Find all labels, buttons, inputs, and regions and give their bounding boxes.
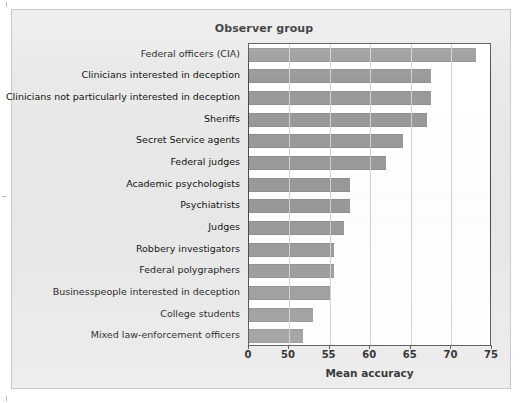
figure-container: Observer group Federal officers (CIA)Cli… <box>0 0 525 403</box>
x-tick-label-75: 75 <box>484 349 498 360</box>
category-axis-labels: Federal officers (CIA)Clinicians interes… <box>12 43 244 346</box>
category-label: Academic psychologists <box>126 178 240 189</box>
gridline-50 <box>289 44 290 345</box>
gridline-55 <box>330 44 331 345</box>
bar <box>249 308 313 322</box>
bar <box>249 264 334 278</box>
bar <box>249 113 427 127</box>
bar <box>249 199 350 213</box>
category-label: Psychiatrists <box>180 199 240 210</box>
category-label: Judges <box>208 221 240 232</box>
bar <box>249 69 431 83</box>
category-label: Mixed law-enforcement officers <box>91 329 240 340</box>
bar <box>249 48 476 62</box>
x-tick-label-60: 60 <box>362 349 376 360</box>
x-axis-ticks: 0505560657075 <box>248 349 491 365</box>
category-label: College students <box>160 308 240 319</box>
category-label: Clinicians not particularly interested i… <box>6 91 240 102</box>
category-label: Clinicians interested in deception <box>82 69 240 80</box>
category-label: Robbery investigators <box>136 243 240 254</box>
bar <box>249 134 403 148</box>
bar <box>249 286 331 300</box>
category-label: Businesspeople interested in deception <box>53 286 240 297</box>
category-label: Federal officers (CIA) <box>141 48 240 59</box>
x-tick-label-65: 65 <box>403 349 417 360</box>
x-axis-label: Mean accuracy <box>248 367 491 379</box>
scan-edge-mark-left <box>2 196 7 197</box>
category-label: Federal polygraphers <box>139 264 240 275</box>
gridline-60 <box>370 44 371 345</box>
x-tick-label-55: 55 <box>322 349 336 360</box>
gridline-70 <box>451 44 452 345</box>
bar <box>249 243 334 257</box>
category-label: Federal judges <box>170 156 240 167</box>
bar <box>249 156 386 170</box>
plot-area <box>248 43 491 346</box>
figure-panel: Observer group Federal officers (CIA)Cli… <box>11 9 511 389</box>
x-tick-label-70: 70 <box>443 349 457 360</box>
bar <box>249 178 350 192</box>
x-tick-label-50: 50 <box>281 349 295 360</box>
scan-edge-mark-top <box>6 2 7 7</box>
category-label: Sheriffs <box>204 113 240 124</box>
gridline-65 <box>411 44 412 345</box>
category-label: Secret Service agents <box>136 134 240 145</box>
bar <box>249 329 303 343</box>
bar <box>249 91 431 105</box>
x-tick-label-0: 0 <box>245 349 252 360</box>
chart-title: Observer group <box>12 22 512 35</box>
scan-edge-mark-bottom <box>6 396 7 401</box>
